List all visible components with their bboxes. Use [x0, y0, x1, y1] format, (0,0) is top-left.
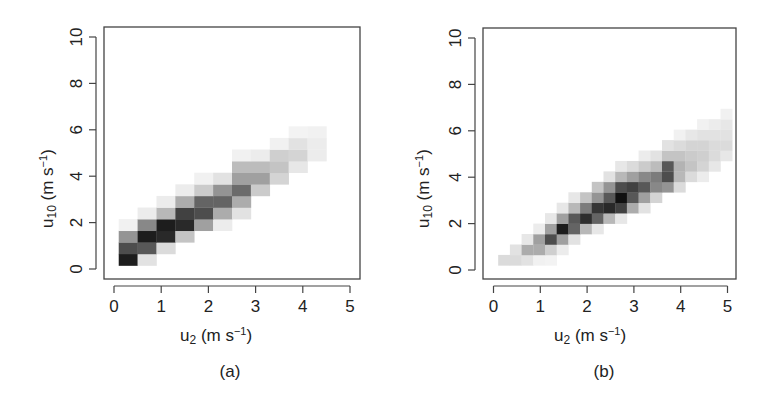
heatmap-cell: [251, 173, 270, 185]
heatmap-cell: [232, 161, 251, 173]
heatmap-cell: [627, 182, 639, 193]
heatmap-cell: [639, 151, 651, 162]
x-tick-label: 3: [251, 297, 260, 316]
heatmap-cell: [709, 161, 721, 172]
heatmap-cell: [522, 234, 534, 245]
heatmap-cell: [194, 196, 213, 208]
heatmap-cell: [138, 219, 157, 231]
heatmap-cell: [697, 119, 709, 130]
x-tick-label: 0: [489, 297, 498, 316]
heatmap-cell: [557, 203, 569, 214]
heatmap-cell: [545, 234, 557, 245]
heatmap-cell: [627, 171, 639, 182]
heatmap-cell: [213, 173, 232, 185]
heatmap-cell: [615, 192, 627, 203]
heatmap-cell: [674, 130, 686, 141]
heatmap-cell: [522, 244, 534, 255]
heatmap-cell: [175, 219, 194, 231]
x-axis: 012345: [489, 286, 732, 316]
heatmap-cell: [232, 208, 251, 220]
heatmap-cell: [270, 138, 289, 150]
heatmap-cell: [194, 219, 213, 231]
panel-caption-a: (a): [200, 362, 260, 382]
heatmap-cell: [615, 161, 627, 172]
heatmap-cell: [685, 161, 697, 172]
heatmap-cell: [592, 182, 604, 193]
y-tick-label: 10: [446, 29, 465, 48]
heatmap-cell: [175, 184, 194, 196]
heatmap-cell: [615, 203, 627, 214]
heatmap-cell: [557, 224, 569, 235]
y-tick-label: 4: [446, 172, 465, 181]
x-axis-label-a: u2 (m s−1): [180, 325, 252, 347]
heatmap-cell: [138, 242, 157, 254]
heatmap-cell: [522, 255, 534, 266]
y-tick-label: 2: [446, 219, 465, 228]
heatmap-cell: [308, 138, 327, 150]
heatmap-cell: [697, 130, 709, 141]
heatmap-cell: [650, 192, 662, 203]
heatmap-cell: [720, 151, 732, 162]
x-tick-label: 1: [536, 297, 545, 316]
heatmap-cell: [603, 192, 615, 203]
heatmap-cell: [156, 208, 175, 220]
heatmap-cell: [674, 182, 686, 193]
y-tick-label: 8: [67, 79, 86, 88]
heatmap-cell: [603, 182, 615, 193]
heatmap-cell: [709, 140, 721, 151]
heatmap-cell: [308, 150, 327, 162]
heatmap-cell: [568, 213, 580, 224]
heatmap-cell: [568, 203, 580, 214]
heatmap-cells: [119, 126, 327, 266]
heatmap-cell: [650, 161, 662, 172]
heatmap-cell: [662, 151, 674, 162]
y-tick-label: 6: [67, 125, 86, 134]
heatmap-cell: [568, 192, 580, 203]
heatmap-cell: [119, 219, 138, 231]
heatmap-cell: [615, 182, 627, 193]
heatmap-cell: [138, 208, 157, 220]
heatmap-cell: [156, 196, 175, 208]
heatmap-cell: [213, 208, 232, 220]
heatmap-cell: [685, 151, 697, 162]
heatmap-cell: [194, 173, 213, 185]
heatmap-cell: [662, 171, 674, 182]
heatmap-cell: [709, 151, 721, 162]
heatmap-cell: [545, 213, 557, 224]
heatmap-cell: [639, 171, 651, 182]
heatmap-cell: [697, 151, 709, 162]
heatmap-cell: [685, 130, 697, 141]
heatmap-cell: [615, 213, 627, 224]
heatmap-cell: [592, 192, 604, 203]
heatmap-cell: [674, 140, 686, 151]
heatmap-cell: [580, 224, 592, 235]
heatmap-cell: [289, 126, 308, 138]
y-tick-label: 10: [67, 28, 86, 47]
heatmap-cell: [650, 151, 662, 162]
heatmap-cell: [510, 255, 522, 266]
y-axis: 0246810: [67, 28, 96, 274]
heatmap-cell: [557, 234, 569, 245]
heatmap-cell: [533, 224, 545, 235]
heatmap-cell: [697, 171, 709, 182]
x-tick-label: 5: [345, 297, 354, 316]
heatmap-cell: [674, 171, 686, 182]
heatmap-cell: [533, 234, 545, 245]
heatmap-cell: [270, 161, 289, 173]
heatmap-cell: [662, 182, 674, 193]
heatmap-cell: [627, 192, 639, 203]
y-tick-label: 2: [67, 218, 86, 227]
heatmap-cell: [194, 208, 213, 220]
heatmap-cell: [119, 254, 138, 266]
heatmap-cell: [592, 203, 604, 214]
heatmap-cell: [156, 242, 175, 254]
heatmap-cell: [510, 244, 522, 255]
heatmap-cell: [650, 171, 662, 182]
heatmap-cell: [289, 138, 308, 150]
heatmap-cell: [603, 203, 615, 214]
heatmap-cell: [270, 173, 289, 185]
heatmap-cell: [545, 224, 557, 235]
heatmap-cell: [603, 213, 615, 224]
heatmap-cell: [232, 150, 251, 162]
heatmap-cell: [119, 242, 138, 254]
